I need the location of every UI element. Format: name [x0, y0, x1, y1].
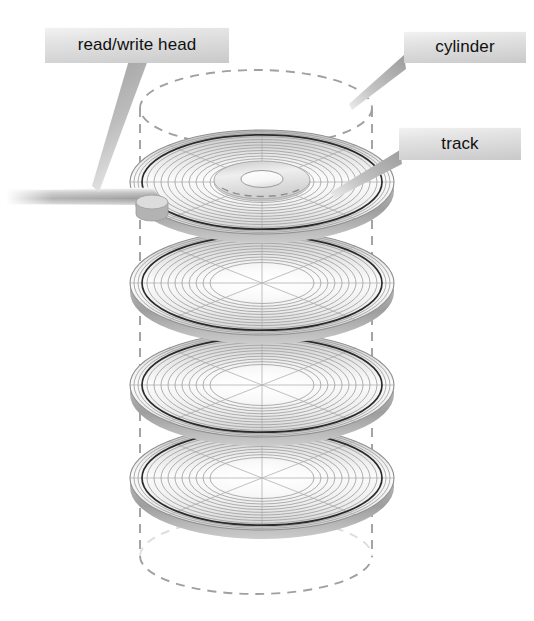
platter-2	[130, 231, 394, 344]
callout-read-write-head-label: read/write head	[78, 35, 197, 55]
actuator-arm	[6, 188, 168, 221]
callout-read-write-head: read/write head	[45, 27, 229, 63]
pointer-cylinder	[349, 55, 406, 110]
disk-stack-illustration	[0, 0, 534, 621]
read-write-head-tip	[136, 195, 168, 221]
spindle-hub	[214, 161, 310, 201]
callout-cylinder-label: cylinder	[435, 37, 494, 57]
callout-track: track	[399, 127, 521, 160]
callout-cylinder: cylinder	[404, 31, 526, 63]
diagram-canvas: read/write head cylinder track	[0, 0, 534, 621]
platter-3	[130, 333, 394, 446]
callout-track-label: track	[441, 134, 478, 154]
cylinder-bottom-arc	[140, 556, 372, 594]
